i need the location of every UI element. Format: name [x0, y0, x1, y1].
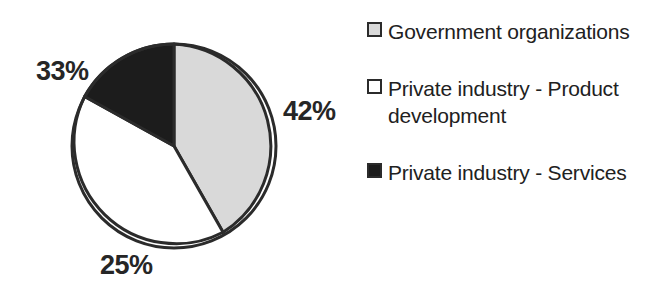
legend-label-government-organizations: Government organizations [388, 18, 630, 45]
slice-value-label-government-organizations: 42% [283, 96, 336, 127]
legend-swatch-icon-private-industry-product-development [367, 79, 382, 94]
pie-chart-figure: 42% 25% 33% Government organizations Pri… [0, 0, 650, 308]
legend-item-private-industry-services: Private industry - Services [367, 159, 647, 186]
legend-label-private-industry-services: Private industry - Services [388, 159, 627, 186]
legend-swatch-icon-private-industry-services [367, 163, 382, 178]
legend-item-private-industry-product-development: Private industry - Product development [367, 75, 647, 129]
slice-value-label-private-industry-services: 33% [36, 56, 89, 87]
legend-label-private-industry-product-development: Private industry - Product development [388, 75, 647, 129]
pie-chart-graphic [68, 40, 280, 252]
legend-swatch-icon-government-organizations [367, 22, 382, 37]
legend-item-government-organizations: Government organizations [367, 18, 647, 45]
slice-value-label-private-industry-product-development: 25% [100, 250, 153, 281]
chart-legend: Government organizations Private industr… [367, 18, 647, 186]
pie-svg [68, 40, 280, 252]
